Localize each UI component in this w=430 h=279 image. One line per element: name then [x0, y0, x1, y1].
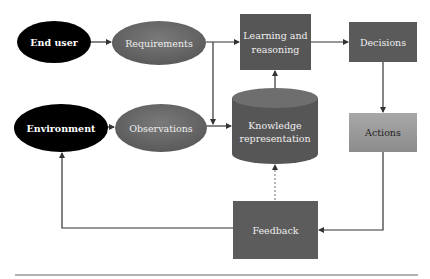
node-feedback: Feedback: [233, 201, 318, 259]
node-learning-reasoning: Learning and reasoning: [240, 14, 311, 70]
feedback-label: Feedback: [252, 225, 298, 236]
node-actions: Actions: [349, 113, 417, 152]
observations-label: Observations: [129, 123, 193, 134]
edge-actions-feedback: [319, 152, 383, 230]
knowledge-label-line1: Knowledge: [248, 120, 302, 131]
knowledge-label-line2: representation: [239, 133, 310, 144]
learning-label-line2: reasoning: [252, 44, 300, 55]
node-knowledge-representation: Knowledge representation: [232, 88, 318, 164]
node-environment: Environment: [14, 104, 108, 152]
flow-diagram: End user Requirements Environment Observ…: [0, 0, 430, 279]
node-observations: Observations: [115, 104, 207, 152]
end-user-label: End user: [30, 37, 78, 48]
environment-label: Environment: [27, 123, 97, 134]
edges: [62, 42, 383, 230]
node-end-user: End user: [17, 21, 91, 63]
edge-feedback-environment: [62, 153, 233, 228]
actions-label: Actions: [364, 127, 401, 138]
decisions-label: Decisions: [360, 37, 406, 48]
node-requirements: Requirements: [112, 21, 206, 65]
node-decisions: Decisions: [349, 22, 417, 62]
requirements-label: Requirements: [125, 38, 193, 49]
learning-label-line1: Learning and: [243, 30, 307, 41]
